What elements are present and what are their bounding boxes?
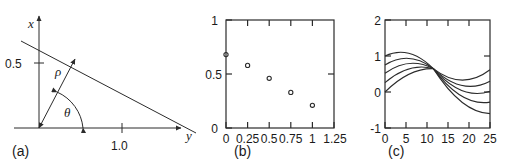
panel-c-plot: -1 0 1 2 0 5 10 15 20 25	[352, 0, 513, 167]
figure-root: x y 0.5 1.0 ρ θ (a)	[0, 0, 513, 167]
panel-a: x y 0.5 1.0 ρ θ (a)	[0, 0, 200, 167]
diagram-straight-line	[21, 41, 196, 133]
panel-label-a: (a)	[12, 143, 29, 159]
panel-label-b: (b)	[234, 143, 251, 159]
panel-b-plot: 0 0.5 1 0 0.25 0.5 0.75 1 1.25	[196, 0, 346, 167]
c-ytick-label-2: 2	[374, 14, 381, 28]
panel-a-plot: x y 0.5 1.0 ρ θ	[0, 0, 200, 167]
c-ytick-label-1: 1	[374, 50, 381, 64]
rho-label: ρ	[54, 64, 61, 79]
c-curve-1	[385, 52, 490, 80]
panel-b-frame	[226, 20, 334, 128]
b-data-point-4	[289, 90, 293, 94]
b-data-point-3	[267, 76, 271, 80]
y-tick-label-0.5: 0.5	[5, 57, 22, 71]
c-ytick-label--1: -1	[370, 122, 381, 136]
b-ytick-label-0.5: 0.5	[205, 68, 222, 82]
b-ytick-label-1: 1	[211, 14, 218, 28]
b-data-point-2	[246, 63, 250, 67]
b-xtick-label-1.25: 1.25	[323, 132, 347, 146]
b-xtick-label-0.5: 0.5	[261, 132, 278, 146]
panel-c: -1 0 1 2 0 5 10 15 20 25 (c)	[352, 0, 513, 167]
c-xtick-label-25: 25	[483, 132, 497, 146]
b-xtick-label-0: 0	[223, 132, 230, 146]
c-ytick-label-0: 0	[374, 86, 381, 100]
b-xtick-label-1: 1	[309, 132, 316, 146]
x-tick-label-1.0: 1.0	[111, 139, 128, 153]
x-axis-label: x	[27, 16, 34, 31]
b-xtick-label-0.75: 0.75	[279, 132, 303, 146]
b-data-point-5	[310, 103, 314, 107]
c-curve-5	[385, 69, 490, 114]
c-xtick-label-10: 10	[420, 132, 434, 146]
theta-label: θ	[64, 105, 71, 120]
c-curve-family	[385, 52, 490, 113]
c-xtick-label-15: 15	[441, 132, 455, 146]
panel-label-c: (c)	[388, 143, 404, 159]
b-ytick-label-0: 0	[211, 122, 218, 136]
panel-b: 0 0.5 1 0 0.25 0.5 0.75 1 1.25 (b)	[196, 0, 346, 167]
c-xtick-label-20: 20	[462, 132, 476, 146]
